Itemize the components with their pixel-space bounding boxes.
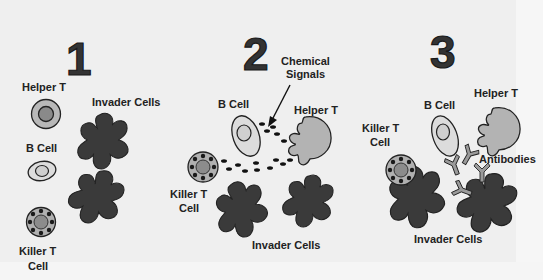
killer-t-label-line2: Cell	[179, 202, 199, 214]
killer-t-label-line2: Cell	[28, 260, 48, 272]
b-cell	[227, 112, 266, 160]
b-cell-label: B Cell	[26, 142, 57, 154]
invader-cells-label: Invader Cells	[252, 239, 320, 251]
invader-cells-label: Invader Cells	[414, 233, 482, 245]
invader-cells-label: Invader Cells	[92, 96, 160, 108]
killer-t-cell	[386, 155, 416, 185]
invader-cell	[280, 171, 336, 231]
helper-t-label: Helper T	[294, 104, 338, 116]
helper-t-label: Helper T	[474, 87, 518, 99]
killer-t-label-line1: Killer T	[362, 122, 400, 134]
killer-t-cell	[188, 152, 218, 182]
killer-t-label-line1: Killer T	[170, 188, 208, 200]
killer-t-label-line1: Killer T	[19, 245, 57, 257]
helper-t-label: Helper T	[22, 81, 66, 93]
panel-2: 2 Chemical Signals B Cell Helper T	[170, 28, 338, 251]
b-cell-label: B Cell	[424, 99, 455, 111]
invader-cell	[63, 162, 129, 231]
killer-t-label-line2: Cell	[370, 136, 390, 148]
helper-t-cell	[32, 100, 61, 129]
panel-number-3: 3	[430, 26, 456, 78]
helper-t-cell	[478, 108, 520, 156]
b-cell	[26, 159, 57, 183]
antibody	[443, 154, 465, 177]
b-cell	[427, 112, 464, 160]
invader-cell	[78, 113, 128, 169]
b-cell-label: B Cell	[218, 98, 249, 110]
chemical-signals-arrow	[268, 85, 290, 127]
immune-response-diagram: 1 Helper T B Cell Kil	[0, 0, 543, 280]
panel-3: 3 Helper T B Cell Killer T Cell	[362, 26, 536, 245]
chemical-signals-label-line2: Signals	[286, 68, 325, 80]
invader-cell-tagged	[453, 166, 522, 239]
panel-number-1: 1	[66, 33, 92, 85]
panel-1: 1 Helper T B Cell Kil	[19, 33, 160, 272]
killer-t-cell	[27, 208, 56, 237]
invader-cell	[209, 176, 272, 243]
panel-number-2: 2	[243, 28, 269, 80]
helper-t-cell	[289, 117, 331, 165]
chemical-signals-label-line1: Chemical	[281, 55, 330, 67]
antibodies-label: Antibodies	[479, 153, 536, 165]
